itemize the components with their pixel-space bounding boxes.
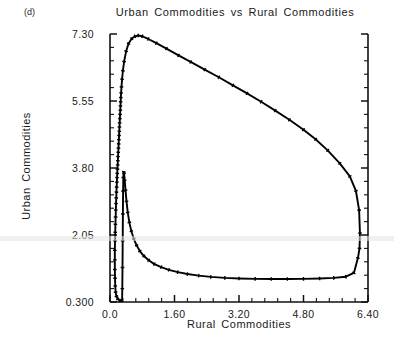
x-tick-label: 4.80 xyxy=(279,308,329,320)
data-point-marker xyxy=(354,190,357,191)
x-tick-label: 0.0 xyxy=(85,308,135,320)
y-tick-label: 2.05 xyxy=(34,229,94,241)
data-point-marker xyxy=(345,275,346,279)
chart-figure: (d) Urban Commodities vs Rural Commoditi… xyxy=(0,0,394,337)
data-point-marker xyxy=(130,231,133,232)
data-point-marker xyxy=(187,272,188,276)
data-point-marker xyxy=(122,171,126,172)
data-point-marker xyxy=(177,270,178,274)
x-tick-label: 3.20 xyxy=(214,308,264,320)
panel-label: (d) xyxy=(24,7,35,17)
data-point-marker xyxy=(122,61,126,62)
data-point-marker xyxy=(356,258,360,259)
y-tick-label: 7.30 xyxy=(34,28,94,40)
data-curve-trajectory xyxy=(115,36,360,302)
data-point-marker xyxy=(124,51,127,52)
data-point-marker xyxy=(115,296,118,297)
data-point-marker xyxy=(168,268,169,271)
x-tick-label: 6.40 xyxy=(343,308,393,320)
chart-title: Urban Commodities vs Rural Commodities xyxy=(110,6,360,18)
y-tick-label: 0.300 xyxy=(34,296,94,308)
y-tick-label: 5.55 xyxy=(34,95,94,107)
data-point-marker xyxy=(128,222,132,223)
y-axis-title: Urban Commodities xyxy=(20,91,32,241)
x-tick-label: 1.60 xyxy=(150,308,200,320)
y-tick-label: 3.80 xyxy=(34,162,94,174)
